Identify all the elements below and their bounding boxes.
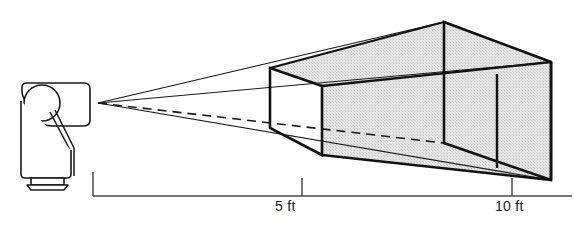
scale-label-10ft: 10 ft bbox=[495, 198, 524, 214]
projector-foot bbox=[27, 185, 68, 190]
scale-label-5ft: 5 ft bbox=[275, 198, 296, 214]
projection-diagram-svg bbox=[0, 0, 574, 231]
projector-base bbox=[31, 178, 64, 185]
diagram-canvas: 5 ft 10 ft bbox=[0, 0, 574, 231]
